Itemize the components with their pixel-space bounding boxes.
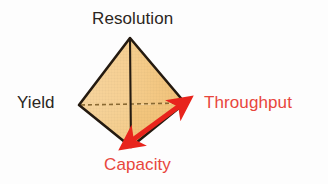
diagram-canvas: Resolution Yield Throughput Capacity [0,0,328,184]
vertex-label-capacity: Capacity [104,155,171,175]
front-vertical-edge [130,38,131,147]
solid-texture-overlay [79,38,185,147]
vertex-label-yield: Yield [17,93,55,113]
vertex-label-throughput: Throughput [204,93,292,113]
vertex-label-resolution: Resolution [92,9,173,29]
